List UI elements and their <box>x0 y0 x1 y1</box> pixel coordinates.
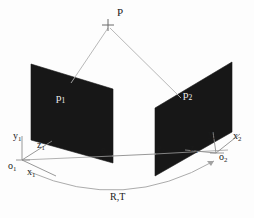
axis-y-left-label: y1 <box>13 131 21 141</box>
projection-ray-left <box>71 28 108 83</box>
coordinate-axes-left <box>16 136 56 176</box>
image-plane-right-label: p2 <box>183 89 192 100</box>
axis-y-right-label: y2 <box>208 129 216 139</box>
epipole-right-label: e2 <box>157 143 165 153</box>
rigid-transform-arc <box>30 161 214 190</box>
axis-z-left-label: z1 <box>37 140 45 150</box>
axis-x-left-label: x1 <box>27 167 35 177</box>
epipolar-geometry-figure: P p1 p2 e1 e2 o1 o2 x1 y1 z1 x2 y2 z2 R,… <box>0 0 254 218</box>
rigid-transform-label: R,T <box>110 192 125 202</box>
origin-right-label: o2 <box>219 152 227 162</box>
axis-z-right-label: z2 <box>190 143 198 153</box>
image-plane-left-label: p1 <box>56 92 65 103</box>
projection-ray-right <box>110 28 181 98</box>
scene-point-label: P <box>117 7 123 18</box>
epipole-left-label: e1 <box>101 145 109 155</box>
scene-point-cross-icon <box>102 19 114 31</box>
rigid-transform-arrowhead-icon <box>207 161 214 166</box>
epipolar-line-segment <box>112 154 156 156</box>
axis-x-right-label: x2 <box>233 131 241 141</box>
figure-canvas <box>0 0 254 218</box>
origin-left-label: o1 <box>8 161 16 171</box>
